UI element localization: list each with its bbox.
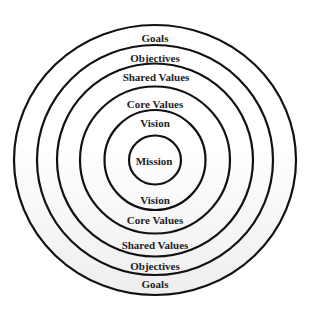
label-vision-top: Vision xyxy=(140,117,170,129)
label-goals-top: Goals xyxy=(142,32,170,44)
label-vision-bottom: Vision xyxy=(140,194,170,206)
label-core-values-top: Core Values xyxy=(127,98,184,110)
label-objectives-top: Objectives xyxy=(130,52,180,64)
label-shared-values-top: Shared Values xyxy=(123,71,190,83)
diagram-svg: Goals Objectives Shared Values Core Valu… xyxy=(0,0,313,312)
label-shared-values-bottom: Shared Values xyxy=(122,239,189,251)
label-core-values-bottom: Core Values xyxy=(127,214,184,226)
label-objectives-bottom: Objectives xyxy=(130,260,180,272)
concentric-circles-diagram: Goals Objectives Shared Values Core Valu… xyxy=(0,0,313,312)
label-mission: Mission xyxy=(136,155,173,167)
label-goals-bottom: Goals xyxy=(142,278,170,290)
